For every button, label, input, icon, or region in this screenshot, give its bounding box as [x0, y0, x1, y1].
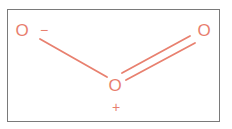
- right-oxygen-atom: O: [197, 21, 210, 40]
- single-bond: [40, 39, 107, 77]
- left-oxygen-atom: O: [15, 21, 28, 40]
- center-oxygen-atom: O: [108, 76, 121, 95]
- positive-charge: +: [112, 99, 120, 115]
- negative-charge: −: [40, 22, 48, 38]
- double-bond-line-2: [126, 43, 195, 80]
- ozone-structure: O − O + O: [0, 0, 232, 129]
- double-bond-line-1: [122, 36, 190, 73]
